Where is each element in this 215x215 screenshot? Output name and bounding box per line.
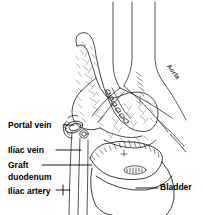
duodenocystostomy xyxy=(124,166,146,174)
pancreas-graft xyxy=(72,33,158,148)
label-iliac-vein: Iliac vein xyxy=(8,145,44,155)
label-portal-vein: Portal vein xyxy=(8,120,51,130)
label-iliac-artery: Iliac artery xyxy=(8,186,51,196)
label-duodenum: duodenum xyxy=(8,172,51,182)
label-graft: Graft xyxy=(8,160,28,170)
portal-vein-loops xyxy=(63,115,88,138)
iliac-vessel-lines xyxy=(69,132,88,215)
label-bladder: Bladder xyxy=(160,182,192,192)
aortic-suture-marks xyxy=(136,72,144,103)
leader-lines xyxy=(42,125,158,195)
duodenum-stitch-mark xyxy=(121,150,127,156)
iliac-limb-left xyxy=(92,88,124,122)
medical-illustration: Portal vein Iliac vein Graft duodenum Il… xyxy=(0,0,215,215)
